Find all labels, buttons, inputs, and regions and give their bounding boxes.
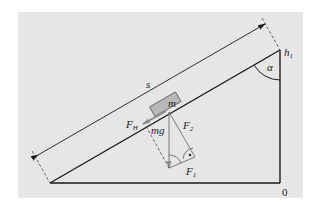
label-alpha: α [267, 61, 273, 73]
inclined-plane-diagram: s m mg FH F2 F1 h1 α 0 [0, 0, 317, 207]
right-angle-dot [189, 154, 191, 156]
label-s: s [146, 78, 150, 90]
label-zero: 0 [282, 186, 288, 198]
label-mg: mg [151, 124, 165, 136]
label-m: m [168, 97, 176, 109]
